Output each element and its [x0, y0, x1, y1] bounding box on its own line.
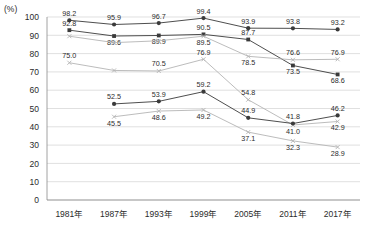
data-label: 41.0: [286, 127, 300, 136]
data-label: 53.9: [152, 90, 166, 99]
data-point-marker-circle: [201, 16, 205, 20]
x-axis-tick-label: 1981年: [55, 209, 83, 219]
y-axis-tick-label: 90: [30, 31, 40, 41]
data-label: 89.9: [152, 37, 166, 46]
data-label: 98.2: [62, 9, 76, 18]
data-point-marker-circle: [336, 113, 340, 117]
data-label: 93.2: [331, 18, 345, 27]
data-label: 96.7: [152, 12, 166, 21]
data-label: 49.2: [197, 112, 211, 121]
chart-canvas: 1009080706050403020100(%)1981年1987年1993年…: [0, 0, 367, 230]
y-axis-tick-label: 20: [30, 159, 40, 169]
data-point-marker-circle: [157, 99, 161, 103]
series-line: [114, 92, 338, 124]
data-point-marker-circle: [336, 27, 340, 31]
data-label: 45.5: [107, 119, 121, 128]
data-label: 89.5: [197, 38, 211, 47]
y-axis-tick-label: 100: [25, 12, 39, 22]
data-point-marker-circle: [291, 121, 295, 125]
data-label: 76.9: [331, 48, 345, 57]
data-label: 93.9: [241, 17, 255, 26]
data-label: 48.6: [152, 113, 166, 122]
x-axis-tick-label: 1987年: [100, 209, 128, 219]
x-axis-tick-label: 2017年: [324, 209, 352, 219]
data-label: 59.2: [197, 80, 211, 89]
data-label: 68.6: [331, 76, 345, 85]
data-label: 41.8: [286, 112, 300, 121]
data-point-marker-square: [67, 28, 71, 32]
x-axis-labels-group: 1981年1987年1993年1999年2005年2011年2017年: [55, 209, 351, 219]
data-label: 37.1: [241, 134, 255, 143]
data-label: 92.8: [62, 19, 76, 28]
data-label: 76.6: [286, 48, 300, 57]
data-label: 90.5: [197, 23, 211, 32]
data-point-marker-circle: [112, 22, 116, 26]
data-point-marker-circle: [201, 90, 205, 94]
data-label: 73.5: [286, 67, 300, 76]
y-axis-tick-label: 10: [30, 177, 40, 187]
y-axis-tick-label: 60: [30, 85, 40, 95]
x-axis-tick-label: 1999年: [190, 209, 218, 219]
data-point-marker-square: [246, 38, 250, 42]
data-label: 87.7: [241, 28, 255, 37]
y-axis-tick-label: 70: [30, 67, 40, 77]
data-label: 54.8: [241, 88, 255, 97]
data-label: 32.3: [286, 143, 300, 152]
data-label: 78.5: [241, 58, 255, 67]
data-point-marker-circle: [246, 116, 250, 120]
y-axis-tick-label: 50: [30, 104, 40, 114]
y-axis-tick-label: 80: [30, 49, 40, 59]
series-series-5-circle-lower: 52.553.959.244.941.846.2: [107, 80, 345, 125]
series-series-6-grey-lower: 45.548.649.237.132.328.9: [107, 108, 345, 158]
y-axis-tick-label: 0: [34, 195, 39, 205]
x-axis-tick-label: 2011年: [279, 209, 306, 219]
data-label: 76.9: [197, 48, 211, 57]
y-axis-unit-label: (%): [4, 4, 17, 14]
data-point-marker-circle: [291, 26, 295, 30]
gridlines-group: 1009080706050403020100: [25, 12, 360, 205]
data-label: 46.2: [331, 104, 345, 113]
series-line: [114, 110, 338, 147]
data-label: 42.9: [331, 123, 345, 132]
data-label: 70.5: [152, 59, 166, 68]
data-point-marker-cross: [246, 98, 250, 102]
x-axis-tick-label: 2005年: [234, 209, 262, 219]
data-point-marker-circle: [157, 21, 161, 25]
data-label: 93.8: [286, 17, 300, 26]
y-axis-tick-label: 30: [30, 140, 40, 150]
data-label: 99.4: [197, 7, 211, 16]
data-label: 28.9: [331, 149, 345, 158]
data-label: 75.0: [62, 51, 76, 60]
x-axis-tick-label: 1993年: [145, 209, 173, 219]
data-label: 95.9: [107, 13, 121, 22]
line-chart: 1009080706050403020100(%)1981年1987年1993年…: [0, 0, 367, 230]
y-axis-tick-label: 40: [30, 122, 40, 132]
data-label: 44.9: [241, 106, 255, 115]
data-point-marker-circle: [112, 102, 116, 106]
data-label: 52.5: [107, 92, 121, 101]
